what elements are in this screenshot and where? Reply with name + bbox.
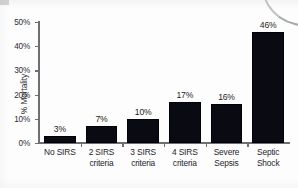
y-axis-tick-label: 20% [14,90,30,99]
x-axis-category-label: 4 SIRS criteria [164,147,206,168]
bar[interactable] [211,104,243,143]
x-axis-category-label: Severe Sepsis [206,147,248,168]
x-axis-category-label: 3 SIRS criteria [122,147,164,168]
bar-group: 46% [247,22,289,143]
y-axis-tick-label: 40% [14,42,30,51]
bar[interactable] [169,102,201,143]
bar-value-label: 7% [95,114,107,124]
bar[interactable] [44,136,76,143]
y-axis-tick-label: 10% [14,114,30,123]
bar-value-label: 17% [177,90,194,100]
y-axis-tick-label: 30% [14,66,30,75]
bar-chart: % Mortality 0%10%20%30%40%50%3%7%10%17%1… [0,0,298,188]
x-axis-category-label: 2 SIRS criteria [81,147,123,168]
bar-group: 7% [81,22,123,143]
bar-value-label: 46% [260,20,277,30]
bar-value-label: 10% [135,107,152,117]
y-axis-tick: 0% [35,143,39,144]
bar[interactable] [252,32,284,143]
bar-value-label: 3% [54,124,66,134]
chart-screenshot: % Mortality 0%10%20%30%40%50%3%7%10%17%1… [0,0,298,188]
bar-group: 3% [39,22,81,143]
bar-group: 10% [122,22,164,143]
bar-value-label: 16% [218,92,235,102]
x-axis-category-label: Septic Shock [247,147,289,168]
bar[interactable] [86,126,118,143]
y-axis-tick-label: 50% [14,18,30,27]
bar-group: 16% [206,22,248,143]
bar-group: 17% [164,22,206,143]
y-axis-tick-label: 0% [19,139,30,148]
plot-area: 0%10%20%30%40%50%3%7%10%17%16%46% [39,22,289,143]
x-axis-category-label: No SIRS [39,147,81,158]
bar[interactable] [127,119,159,143]
